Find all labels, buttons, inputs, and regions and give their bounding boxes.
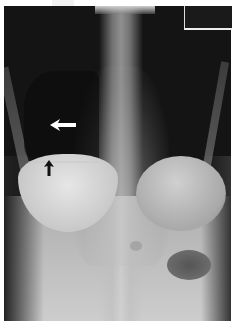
vertebral-density	[130, 241, 142, 251]
air-pocket	[24, 71, 99, 163]
white-arrow-icon	[50, 118, 78, 132]
black-arrow-icon	[44, 160, 54, 176]
air-fluid-level	[28, 161, 98, 163]
corner-marker	[184, 6, 232, 30]
stomach-gas-bubble	[167, 250, 211, 280]
chest-xray-image	[4, 6, 231, 321]
xray-frame	[0, 0, 232, 325]
neck-region	[95, 6, 155, 14]
left-hemidiaphragm	[136, 156, 226, 231]
